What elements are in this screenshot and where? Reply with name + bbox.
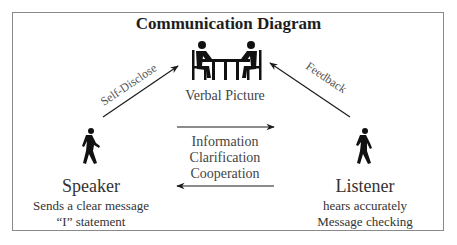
listener-walking-person-icon (356, 128, 372, 164)
speaker-line-1: Sends a clear message (20, 198, 162, 214)
speaker-line-2: “I” statement (20, 214, 162, 230)
middle-line-information: Information (165, 134, 285, 150)
middle-line-clarification: Clarification (165, 150, 285, 166)
listener-line-2: Message checking (305, 214, 425, 230)
speaker-title: Speaker (30, 176, 152, 197)
two-people-at-table-icon (192, 41, 262, 80)
verbal-picture-label: Verbal Picture (175, 88, 275, 104)
middle-line-cooperation: Cooperation (165, 166, 285, 182)
speaker-walking-person-icon (82, 128, 100, 164)
listener-line-1: hears accurately (305, 198, 425, 214)
listener-title: Listener (310, 176, 420, 197)
